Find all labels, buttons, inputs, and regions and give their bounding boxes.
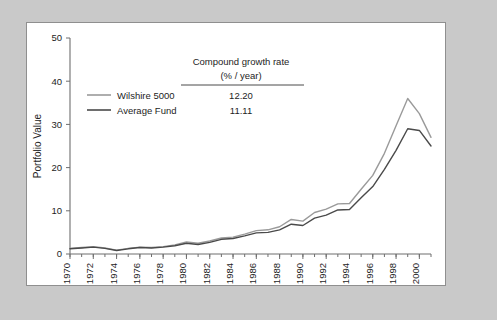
legend: Compound growth rate (% / year) Wilshire… [87,56,304,116]
y-tick-label: 40 [51,76,62,87]
legend-label-wilshire-5000: Wilshire 5000 [117,90,175,101]
y-tick-label: 50 [51,32,62,43]
x-tick-label: 1976 [131,263,142,284]
y-tick-label: 20 [51,162,62,173]
x-tick-label: 1986 [247,263,258,284]
series-paths [70,98,431,250]
x-tick-label: 2000 [410,263,421,284]
y-tick-label: 30 [51,119,62,130]
x-tick-label: 1974 [108,263,119,284]
y-tick-label: 10 [51,205,62,216]
series-line-wilshire-5000 [70,98,431,250]
x-axis-ticks: 1970197219741976197819801982198419861988… [61,254,421,284]
y-axis-title: Portfolio Value [32,113,43,178]
legend-label-average-fund: Average Fund [117,105,177,116]
x-tick-label: 1996 [364,263,375,284]
x-tick-label: 1994 [340,263,351,284]
x-tick-label: 1982 [201,263,212,284]
x-tick-label: 1998 [387,263,398,284]
annotation-heading-line2: (% / year) [220,70,261,81]
y-tick-label: 0 [57,248,62,259]
x-tick-label: 1984 [224,263,235,284]
y-axis-ticks: 01020304050 [51,32,70,259]
x-tick-label: 1988 [271,263,282,284]
x-tick-label: 1978 [154,263,165,284]
legend-value-average-fund: 11.11 [230,105,252,116]
x-tick-label: 1980 [177,263,188,284]
figure-frame: 01020304050 1970197219741976197819801982… [26,22,446,286]
x-tick-label: 1990 [294,263,305,284]
x-tick-label: 1972 [84,263,95,284]
x-tick-label: 1970 [61,263,72,284]
annotation-heading-line1: Compound growth rate [193,56,290,67]
legend-value-wilshire-5000: 12.20 [229,90,253,101]
x-tick-label: 1992 [317,263,328,284]
portfolio-value-line-chart: 01020304050 1970197219741976197819801982… [27,23,447,287]
